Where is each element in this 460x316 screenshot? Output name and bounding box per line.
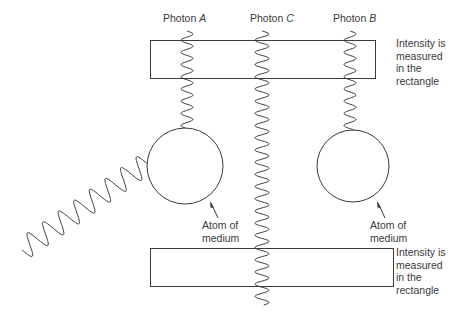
top-measurement-rectangle xyxy=(151,41,376,79)
atom-right xyxy=(317,130,389,202)
atom-left-arrowhead xyxy=(210,201,214,208)
atom-left xyxy=(147,128,223,204)
atom-right-caption: Atom of medium xyxy=(370,219,407,244)
photon-scattering-diagram: Photon A Photon C Photon B Intensity is … xyxy=(0,0,460,316)
photon-c-wave xyxy=(255,31,269,305)
atom-right-arrowhead xyxy=(377,201,381,208)
photon-b-label: Photon B xyxy=(333,12,376,24)
atom-left-caption: Atom of medium xyxy=(202,219,239,244)
photon-a-label: Photon A xyxy=(163,12,206,24)
photon-c-label: Photon C xyxy=(250,12,294,24)
photon-b-wave xyxy=(344,31,356,130)
bottom-measurement-rectangle xyxy=(151,249,394,287)
scattered-photon-wave xyxy=(22,157,147,257)
photon-a-wave xyxy=(181,31,193,128)
diagram-canvas xyxy=(0,0,460,316)
top-rectangle-caption: Intensity is measured in the rectangle xyxy=(396,37,446,87)
bottom-rectangle-caption: Intensity is measured in the rectangle xyxy=(396,246,446,296)
